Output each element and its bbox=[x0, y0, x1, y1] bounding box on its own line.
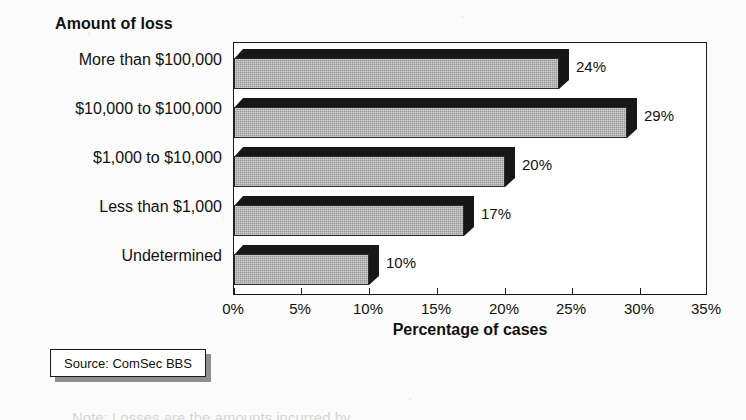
bar-side-face bbox=[505, 147, 515, 187]
xtick-label-30: 30% bbox=[624, 300, 654, 317]
plot-area: 24% 29% 20% 17% 10% bbox=[233, 42, 707, 295]
source-note-box: Source: ComSec BBS bbox=[50, 349, 206, 377]
category-label-1000-to-10000: $1,000 to $10,000 bbox=[10, 149, 222, 167]
xtick-label-15: 15% bbox=[421, 300, 451, 317]
source-note: Source: ComSec BBS bbox=[50, 349, 206, 377]
bar-value-label: 17% bbox=[481, 206, 511, 222]
cutoff-text-fragment: Note: Losses are the amounts incurred by bbox=[72, 409, 402, 420]
chart-title: Amount of loss bbox=[55, 15, 173, 33]
bar-side-face bbox=[627, 98, 637, 138]
xtick-mark-15 bbox=[437, 288, 438, 294]
category-label-undetermined: Undetermined bbox=[10, 247, 222, 265]
xtick-label-25: 25% bbox=[556, 300, 586, 317]
bar-side-face bbox=[559, 49, 569, 89]
bar-value-label: 10% bbox=[386, 255, 416, 271]
bar-side-face bbox=[464, 196, 474, 236]
bar-front-face bbox=[234, 205, 464, 236]
category-label-10000-to-100000: $10,000 to $100,000 bbox=[10, 100, 222, 118]
xtick-label-5: 5% bbox=[289, 300, 311, 317]
xtick-label-20: 20% bbox=[489, 300, 519, 317]
bar-side-face bbox=[369, 245, 379, 285]
xtick-label-35: 35% bbox=[691, 300, 721, 317]
bar-front-face bbox=[234, 254, 369, 285]
bar-value-label: 20% bbox=[522, 157, 552, 173]
bar-front-face bbox=[234, 107, 627, 138]
xtick-mark-35 bbox=[706, 288, 707, 294]
bar-value-label: 29% bbox=[644, 108, 674, 124]
xtick-mark-20 bbox=[505, 288, 506, 294]
bar-front-face bbox=[234, 58, 559, 89]
xtick-mark-0 bbox=[234, 288, 235, 294]
bar-value-label: 24% bbox=[576, 59, 606, 75]
xtick-mark-5 bbox=[301, 288, 302, 294]
xtick-label-0: 0% bbox=[222, 300, 244, 317]
x-axis-title: Percentage of cases bbox=[233, 321, 707, 339]
category-label-less-than-1000: Less than $1,000 bbox=[10, 198, 222, 216]
xtick-mark-25 bbox=[572, 288, 573, 294]
xtick-mark-10 bbox=[369, 288, 370, 294]
category-label-more-than-100000: More than $100,000 bbox=[10, 51, 222, 69]
xtick-mark-30 bbox=[640, 288, 641, 294]
category-axis: More than $100,000 $10,000 to $100,000 $… bbox=[10, 42, 228, 295]
source-note-label: Source: ComSec BBS bbox=[64, 356, 192, 371]
bar-front-face bbox=[234, 156, 505, 187]
xtick-label-10: 10% bbox=[353, 300, 383, 317]
